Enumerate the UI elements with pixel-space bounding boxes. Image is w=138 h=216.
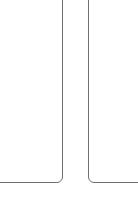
- canvas: [0, 0, 138, 216]
- left-panel: [0, 0, 63, 183]
- right-panel: [88, 0, 138, 183]
